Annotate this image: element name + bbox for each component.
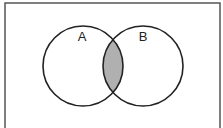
set-a-label: A [78,29,87,44]
venn-diagram: A B [0,0,223,128]
set-b-label: B [139,29,148,44]
